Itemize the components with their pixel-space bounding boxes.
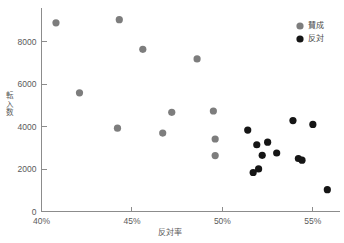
x-tick-label: 55% [304, 216, 321, 226]
data-point [114, 125, 121, 132]
data-point [273, 149, 280, 156]
y-axis-ticks: 02000400060008000 [18, 37, 47, 217]
legend-marker [296, 35, 303, 42]
y-tick-label: 6000 [18, 79, 37, 89]
data-point [116, 16, 123, 23]
data-point [264, 139, 271, 146]
x-axis-ticks: 40%45%50%55% [33, 207, 322, 226]
data-point [168, 109, 175, 116]
x-axis-title: 反対率 [158, 227, 182, 237]
y-tick-label: 8000 [18, 37, 37, 47]
axes [42, 8, 341, 212]
data-point [76, 89, 83, 96]
y-axis-title-char-3: 数 [4, 109, 15, 118]
data-point [159, 129, 166, 136]
data-point [139, 46, 146, 53]
data-point [253, 141, 260, 148]
x-tick-label: 50% [214, 216, 231, 226]
scatter-chart: 02000400060008000 40%45%50%55% 賛成反対 反対率 … [0, 0, 344, 243]
data-point [52, 19, 59, 26]
data-points [52, 16, 331, 193]
legend-label: 反対 [308, 33, 324, 43]
legend-marker [296, 22, 303, 29]
data-point [212, 135, 219, 142]
data-point [309, 121, 316, 128]
data-point [259, 152, 266, 159]
data-point [324, 186, 331, 193]
legend: 賛成反対 [296, 20, 324, 43]
legend-label: 賛成 [308, 20, 324, 30]
data-point [210, 107, 217, 114]
y-tick-label: 2000 [18, 164, 37, 174]
data-point [289, 117, 296, 124]
series-2 [244, 117, 331, 193]
data-point [212, 152, 219, 159]
series-1 [52, 16, 218, 159]
x-tick-label: 45% [123, 216, 140, 226]
y-axis-title: 転 入 数 [4, 92, 15, 118]
y-tick-label: 4000 [18, 122, 37, 132]
data-point [193, 55, 200, 62]
plot-area: 02000400060008000 40%45%50%55% 賛成反対 反対率 [0, 0, 344, 243]
data-point [244, 127, 251, 134]
data-point [298, 157, 305, 164]
x-tick-label: 40% [33, 216, 50, 226]
data-point [255, 165, 262, 172]
